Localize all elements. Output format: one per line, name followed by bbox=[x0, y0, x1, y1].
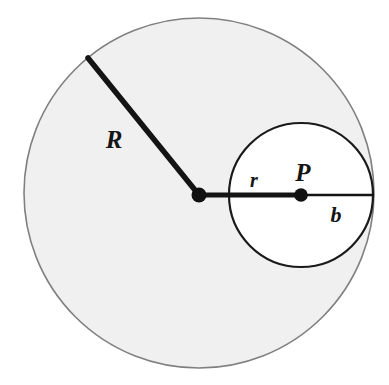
label-R: R bbox=[106, 127, 123, 152]
label-P: P bbox=[295, 160, 310, 185]
label-b: b bbox=[331, 204, 342, 226]
label-r: r bbox=[250, 170, 258, 190]
diagram-canvas: R r P b bbox=[0, 0, 389, 385]
point-P bbox=[294, 188, 308, 202]
center-point-O bbox=[192, 188, 207, 203]
geometry-figure bbox=[0, 0, 389, 385]
